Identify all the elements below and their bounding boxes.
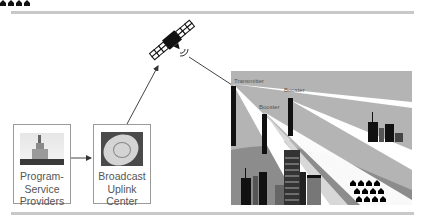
arrow-uplink-to-satellite: [127, 66, 158, 124]
booster-tower-2: [288, 98, 293, 136]
houses-icon: [0, 0, 30, 6]
transmitter-tower: [231, 86, 236, 146]
booster-label-1: Booster: [259, 104, 280, 110]
signal-waves-icon: [180, 49, 188, 56]
booster-label-2: Booster: [284, 87, 305, 93]
transmitter-label: Transmitter: [234, 78, 264, 84]
diagram-canvas: Transmitter Booster Booster: [0, 0, 424, 223]
booster-tower-1: [262, 114, 267, 154]
arrow-satellite-to-city: [189, 57, 232, 85]
city-coverage-panel: Transmitter Booster Booster: [0, 0, 412, 205]
